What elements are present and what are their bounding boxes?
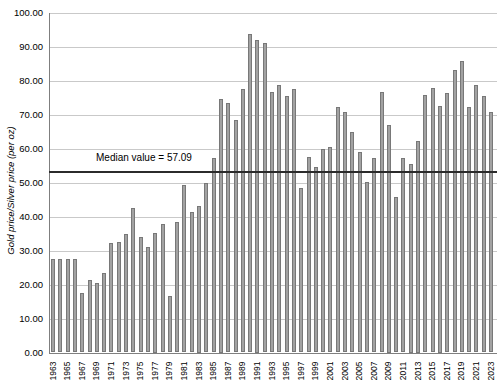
- x-tick-label-1993: 1993: [265, 355, 279, 387]
- x-tick-label-text: 1967: [77, 362, 87, 381]
- x-tick-label-1977: 1977: [148, 355, 162, 387]
- bar-1975: [139, 237, 143, 353]
- bar-2010: [394, 197, 398, 353]
- bar-1982: [190, 212, 194, 353]
- x-tick-label-2017: 2017: [440, 355, 454, 387]
- bar-1967: [80, 293, 84, 352]
- x-tick-label-text: 1999: [311, 362, 321, 381]
- y-tick-label-30.00: 30.00: [3, 246, 43, 256]
- bar-1986: [219, 99, 223, 353]
- bar-1988: [234, 120, 238, 353]
- y-tick-label-50.00: 50.00: [3, 178, 43, 188]
- x-tick-label-text: 2021: [471, 362, 481, 381]
- bar-1976: [146, 247, 150, 353]
- x-tick-label-text: 1985: [209, 362, 219, 381]
- x-tick-label-text: 2009: [384, 362, 394, 381]
- bar-1963: [51, 259, 55, 352]
- bar-1996: [292, 89, 296, 353]
- y-tick-label-100.00: 100.00: [3, 8, 43, 18]
- bar-1974: [131, 208, 135, 352]
- x-tick-label-1967: 1967: [75, 355, 89, 387]
- x-tick-label-1987: 1987: [221, 355, 235, 387]
- x-tick-label-text: 1987: [223, 362, 233, 381]
- median-value-line: [49, 171, 498, 173]
- x-tick-label-2019: 2019: [455, 355, 469, 387]
- bar-1995: [285, 96, 289, 353]
- bar-2012: [409, 164, 413, 353]
- x-tick-label-text: 2001: [325, 362, 335, 381]
- bar-1968: [88, 280, 92, 353]
- bar-1985: [212, 158, 216, 352]
- x-tick-label-text: 2007: [369, 362, 379, 381]
- gridline-100: [49, 13, 498, 14]
- bar-1965: [66, 259, 70, 352]
- bar-1972: [117, 242, 121, 352]
- bar-1981: [182, 185, 186, 352]
- x-tick-label-text: 1995: [282, 362, 292, 381]
- bar-1971: [109, 243, 113, 352]
- gridline-90: [49, 47, 498, 48]
- x-tick-label-text: 1963: [48, 362, 58, 381]
- bar-1987: [226, 103, 230, 352]
- bar-1990: [248, 34, 252, 353]
- bar-1970: [102, 273, 106, 352]
- bar-2001: [328, 147, 332, 353]
- bar-1969: [95, 283, 99, 352]
- bar-2015: [431, 88, 435, 352]
- y-tick-label-80.00: 80.00: [3, 76, 43, 86]
- bar-1999: [314, 167, 318, 353]
- x-tick-label-2021: 2021: [469, 355, 483, 387]
- x-tick-label-1983: 1983: [192, 355, 206, 387]
- bar-1992: [263, 43, 267, 353]
- x-tick-label-text: 1989: [238, 362, 248, 381]
- bar-1966: [73, 259, 77, 352]
- x-tick-label-1963: 1963: [46, 355, 60, 387]
- bar-2002: [336, 107, 340, 353]
- x-tick-label-text: 2011: [398, 362, 408, 380]
- bar-1997: [299, 188, 303, 353]
- x-tick-label-2013: 2013: [411, 355, 425, 387]
- bar-1973: [124, 234, 128, 352]
- x-tick-label-text: 1981: [179, 362, 189, 381]
- bar-1978: [161, 224, 165, 352]
- x-tick-label-2007: 2007: [367, 355, 381, 387]
- x-tick-label-1991: 1991: [250, 355, 264, 387]
- x-tick-label-1973: 1973: [119, 355, 133, 387]
- bar-2004: [350, 132, 354, 353]
- x-tick-label-1995: 1995: [280, 355, 294, 387]
- x-tick-label-text: 1991: [252, 362, 262, 381]
- bar-2017: [445, 93, 449, 353]
- gridline-80: [49, 81, 498, 82]
- bar-2006: [365, 182, 369, 352]
- x-tick-label-1997: 1997: [294, 355, 308, 387]
- x-tick-label-text: 2017: [442, 362, 452, 381]
- y-tick-label-70.00: 70.00: [3, 110, 43, 120]
- x-tick-label-1999: 1999: [309, 355, 323, 387]
- x-tick-label-text: 1965: [63, 362, 73, 381]
- y-tick-label-90.00: 90.00: [3, 42, 43, 52]
- x-tick-label-text: 1977: [150, 362, 160, 381]
- bar-2007: [372, 158, 376, 352]
- x-tick-label-1975: 1975: [134, 355, 148, 387]
- x-tick-label-text: 2019: [457, 362, 467, 381]
- x-tick-label-2023: 2023: [484, 355, 498, 387]
- bar-2009: [387, 125, 391, 353]
- x-tick-label-2015: 2015: [426, 355, 440, 387]
- x-tick-label-text: 1983: [194, 362, 204, 381]
- x-tick-label-text: 1979: [165, 362, 175, 381]
- y-axis-line: [49, 13, 50, 354]
- bar-1993: [270, 92, 274, 352]
- bar-1991: [255, 40, 259, 353]
- bar-2014: [423, 95, 427, 352]
- x-tick-label-text: 2013: [413, 362, 423, 381]
- bar-2013: [416, 141, 420, 353]
- x-tick-label-2011: 2011: [396, 355, 410, 387]
- bar-2023: [489, 112, 493, 353]
- x-tick-label-1965: 1965: [61, 355, 75, 387]
- y-tick-label-60.00: 60.00: [3, 144, 43, 154]
- x-tick-label-2001: 2001: [323, 355, 337, 387]
- bar-1989: [241, 89, 245, 353]
- bar-1984: [204, 183, 208, 352]
- bar-1994: [277, 85, 281, 352]
- y-tick-label-0.00: 0.00: [3, 348, 43, 358]
